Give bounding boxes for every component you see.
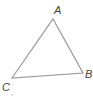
triangle-diagram: A B C (0, 0, 93, 98)
vertex-label-c: C (2, 81, 10, 93)
triangle-abc (12, 19, 83, 78)
vertex-label-b: B (85, 68, 92, 80)
stray-dot-mark (11, 94, 12, 95)
vertex-label-a: A (53, 4, 61, 16)
